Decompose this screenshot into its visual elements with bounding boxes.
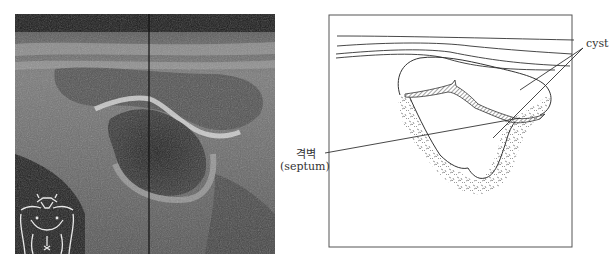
surrounding-tissue bbox=[399, 95, 550, 194]
septum-label-korean: 격벽 bbox=[296, 145, 316, 161]
cyst-leader-upper bbox=[520, 48, 583, 90]
tissue-layers bbox=[336, 36, 574, 70]
schematic-diagram bbox=[0, 0, 615, 264]
diagram-frame bbox=[329, 15, 572, 247]
septum-label-english: (septum) bbox=[280, 160, 330, 173]
cyst-label: cyst bbox=[586, 37, 608, 50]
